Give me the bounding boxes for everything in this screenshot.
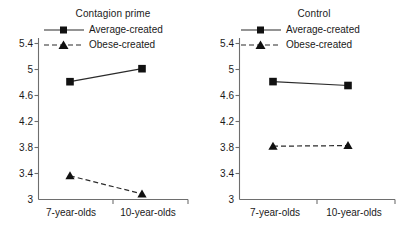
- y-tick-label: 3.4: [220, 168, 234, 179]
- data-point-obese-created: [65, 171, 74, 179]
- data-point-average-created: [269, 78, 277, 86]
- y-tick-label: 3.8: [19, 142, 33, 153]
- data-point-average-created: [344, 82, 352, 90]
- plot-area: 5.4 5 4.6 4.2 3.8 3.4 3: [203, 0, 407, 226]
- y-tick-label: 4.2: [19, 116, 33, 127]
- plot-area: 5.4 5 4.6 4.2 3.8 3.4 3: [0, 0, 204, 226]
- y-tick-label: 5: [228, 64, 234, 75]
- y-tick-label: 3: [228, 194, 234, 205]
- data-point-obese-created: [343, 141, 352, 149]
- panel-contagion-prime: Contagion prime Average-created Obese-cr…: [0, 0, 204, 226]
- y-tick-label: 3.8: [220, 142, 234, 153]
- data-point-average-created: [138, 65, 146, 73]
- series-line-obese-created: [70, 176, 142, 194]
- y-tick-label: 4.6: [19, 90, 33, 101]
- y-tick-label: 5.4: [220, 38, 234, 49]
- series-line-average-created: [70, 69, 142, 82]
- x-tick-label: 7-year-olds: [250, 207, 300, 218]
- data-point-obese-created: [137, 189, 146, 197]
- y-tick-label: 3.4: [19, 168, 33, 179]
- y-tick-label: 5: [27, 64, 33, 75]
- y-tick-label: 4.6: [220, 90, 234, 101]
- data-point-average-created: [66, 78, 74, 86]
- x-tick-label: 7-year-olds: [46, 207, 96, 218]
- figure-two-panel-line-chart: Contagion prime Average-created Obese-cr…: [0, 0, 407, 226]
- y-tick-label: 5.4: [19, 38, 33, 49]
- panel-control: Control Average-created Obese-created 5.…: [203, 0, 407, 226]
- x-tick-label: 10-year-olds: [326, 207, 382, 218]
- series-line-obese-created: [273, 146, 348, 147]
- series-line-average-created: [273, 82, 348, 86]
- y-tick-label: 4.2: [220, 116, 234, 127]
- y-tick-label: 3: [27, 194, 33, 205]
- x-tick-label: 10-year-olds: [120, 207, 176, 218]
